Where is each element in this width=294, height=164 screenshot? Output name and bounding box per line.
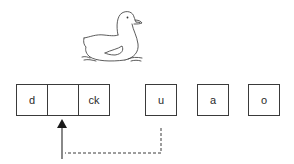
arrow-up-icon — [57, 119, 67, 128]
dashed-connector-line — [65, 128, 161, 153]
connector-arrow — [0, 0, 294, 164]
word-building-diagram: d ck u a o — [0, 0, 294, 164]
